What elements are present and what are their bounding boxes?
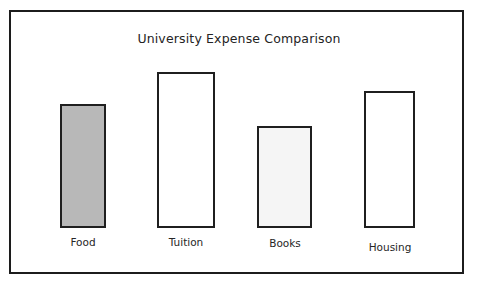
bar-food — [60, 104, 106, 228]
bar-books — [257, 126, 312, 228]
bar-label-tuition: Tuition — [151, 236, 221, 248]
bar-label-books: Books — [250, 237, 320, 249]
bar-label-food: Food — [48, 236, 118, 248]
bar-chart-figure: University Expense Comparison Food Tuiti… — [0, 0, 478, 290]
plot-area — [0, 0, 478, 228]
bar-tuition — [157, 72, 215, 228]
bar-label-housing: Housing — [355, 241, 425, 253]
bar-housing — [364, 91, 415, 228]
